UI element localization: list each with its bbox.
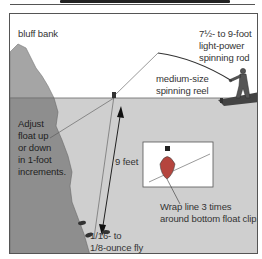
label-fly-2: 1/8-ounce fly [90,242,143,254]
top-banner [0,0,262,6]
label-adjust-1: Adjust [18,118,44,130]
label-wrap-2: around bottom float clip. [160,213,258,225]
label-fly-1: 1/16- to [90,230,121,242]
label-adjust-5: increments. [18,166,66,178]
spinning-reel [220,98,223,103]
label-wrap-1: Wrap line 3 times [160,201,232,213]
banner-cropped-title [60,0,230,3]
float-cap [165,146,170,151]
label-rod-1: 7½- to 9-foot [199,28,252,40]
bluff-bank-shape [10,44,54,98]
diagram-frame: bluff bank 7½- to 9-foot light-power spi… [9,13,258,254]
label-depth: 9 feet [115,156,138,168]
label-rod-2: light-power [199,40,244,52]
label-bluff-bank: bluff bank [18,28,58,40]
label-adjust-2: float up [18,130,48,142]
banner-rule [10,4,255,5]
angler-figure [229,68,250,98]
label-adjust-3: or down [18,142,51,154]
label-adjust-4: in 1-foot [18,154,51,166]
fishing-line-air [114,53,158,96]
label-reel-1: medium-size [156,73,209,85]
label-rod-3: spinning rod [199,52,250,64]
label-reel-2: spinning reel [156,85,209,97]
float-marker [112,92,116,98]
